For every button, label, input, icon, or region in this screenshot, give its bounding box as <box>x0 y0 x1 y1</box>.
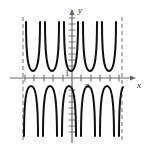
plot-svg: y x 1 π <box>0 0 147 151</box>
plot-background <box>0 0 147 151</box>
label-one: 1 <box>65 69 69 78</box>
y-axis-label: y <box>77 5 82 15</box>
graph-figure: y x 1 π <box>0 0 147 151</box>
x-axis-label: x <box>136 80 141 90</box>
